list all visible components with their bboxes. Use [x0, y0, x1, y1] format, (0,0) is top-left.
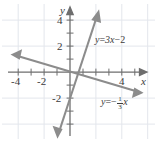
x-tick-label-4: 4 [119, 76, 125, 87]
eq1-slope-term: 3x [105, 34, 114, 45]
x-axis-label: x [141, 76, 146, 87]
equation-label-line-2: y=−13x [101, 96, 128, 111]
y-axis-label: y [60, 5, 65, 16]
eq2-minus: − [111, 96, 117, 107]
eq2-variable: x [123, 96, 127, 107]
coordinate-plane [0, 0, 157, 143]
eq1-intercept: 2 [120, 34, 125, 45]
graph-figure: -4 -2 4 4 2 -2 x y y=3x−2 y=−13x [0, 0, 157, 143]
y-tick-label-neg2: -2 [52, 93, 61, 104]
equation-label-line-1: y=3x−2 [95, 35, 125, 45]
eq2-fraction-one-third: 13 [117, 96, 123, 111]
eq2-fraction-denominator: 3 [117, 104, 123, 111]
y-tick-label-4: 4 [57, 15, 63, 26]
x-tick-label-neg2: -2 [37, 76, 46, 87]
x-tick-label-neg4: -4 [11, 76, 20, 87]
y-tick-label-2: 2 [57, 41, 63, 52]
